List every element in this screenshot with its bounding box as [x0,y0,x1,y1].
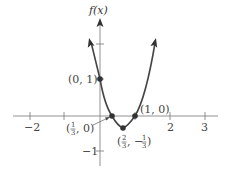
label-vertex: ( 2 3 , − 1 3 ) [117,134,151,150]
curve-left-arrow-icon [86,37,95,47]
x-tick-label-3: 3 [201,121,208,134]
point-1-0 [132,113,138,119]
label-0-1: (0, 1) [68,73,98,86]
function-graph: −2 2 3 −1 f(x) (0, 1) (1, 0) ( 1 3 , 0) … [0,0,227,173]
label-1-0: (1, 0) [140,103,170,116]
svg-text:(: ( [117,135,121,148]
svg-text:3: 3 [142,142,146,150]
x-tick-label-neg2: −2 [24,121,40,134]
y-axis-label: f(x) [88,4,108,17]
svg-text:, 0): , 0) [76,122,94,135]
point-one-third-0 [109,113,115,119]
label-one-third-0: ( 1 3 , 0) [66,121,94,137]
y-tick-label-neg1: −1 [82,145,98,158]
svg-text:, −: , − [127,135,143,148]
svg-text:3: 3 [71,129,75,137]
point-vertex [120,125,126,131]
svg-text:1: 1 [142,134,146,142]
svg-text:(: ( [66,122,70,135]
pointer-line [93,118,108,125]
svg-text:): ) [147,135,151,148]
point-0-1 [97,76,103,82]
svg-text:3: 3 [122,142,126,150]
svg-text:2: 2 [122,134,126,142]
svg-text:1: 1 [71,121,75,129]
pointer-arrow-icon [105,117,110,121]
x-tick-label-2: 2 [167,121,174,134]
